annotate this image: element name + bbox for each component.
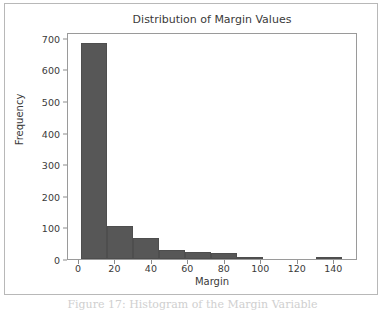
histogram-bar [107, 226, 133, 259]
x-axis-tick-label: 140 [324, 263, 342, 274]
y-axis-tick-label: 700 [42, 33, 60, 44]
y-axis-label: Frequency [14, 60, 25, 180]
y-axis-tick-label: 500 [42, 96, 60, 107]
histogram-bar [185, 252, 211, 259]
y-axis-tick-mark [63, 70, 67, 71]
x-axis-tick-labels: 020406080100120140 [67, 263, 357, 277]
y-axis-tick-label: 100 [42, 223, 60, 234]
y-axis-tick-mark [63, 196, 67, 197]
y-axis-tick-mark [63, 165, 67, 166]
histogram-bars [68, 34, 356, 259]
x-axis-tick-label: 0 [75, 263, 81, 274]
y-axis-tick-mark [63, 260, 67, 261]
y-axis-tick-mark [63, 133, 67, 134]
histogram-bar [316, 257, 342, 259]
x-axis-tick-label: 100 [251, 263, 269, 274]
histogram-bar [133, 238, 159, 259]
chart-title: Distribution of Margin Values [67, 13, 357, 26]
y-axis-tick-mark [63, 101, 67, 102]
x-axis-tick-label: 60 [181, 263, 193, 274]
y-axis-tick-label: 300 [42, 160, 60, 171]
x-axis-tick-label: 20 [108, 263, 120, 274]
y-axis-tick-label: 0 [54, 255, 60, 266]
histogram-bar [159, 250, 185, 259]
y-axis-tick-label: 400 [42, 128, 60, 139]
plot-area [67, 33, 357, 260]
histogram-bar [237, 257, 263, 259]
x-axis-label: Margin [67, 276, 357, 287]
figure-panel: Distribution of Margin Values Frequency … [4, 3, 378, 295]
x-axis-tick-label: 40 [145, 263, 157, 274]
x-axis-tick-label: 80 [218, 263, 230, 274]
x-axis-tick-label: 120 [288, 263, 306, 274]
y-axis-tick-label: 200 [42, 191, 60, 202]
histogram-bar [211, 253, 237, 259]
figure-caption: Figure 17: Histogram of the Margin Varia… [0, 299, 385, 314]
histogram-bar [81, 43, 107, 259]
y-axis-tick-label: 600 [42, 65, 60, 76]
y-axis-tick-mark [63, 38, 67, 39]
y-axis-tick-labels: 0100200300400500600700 [27, 33, 60, 260]
y-axis-tick-mark [63, 228, 67, 229]
